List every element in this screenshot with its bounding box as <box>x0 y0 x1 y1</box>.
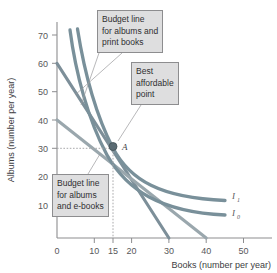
curve-label-i0-group: I 0 <box>231 208 240 220</box>
curve-label-i0: I <box>231 208 236 218</box>
leader-line-ebooks <box>88 154 100 174</box>
x-ticklabel-20: 20 <box>127 246 137 256</box>
y-ticklabel-50: 50 <box>38 87 48 97</box>
indifference-curve-chart: 10 20 30 40 50 60 70 0 10 15 20 30 40 50… <box>0 0 277 273</box>
y-ticklabel-10: 10 <box>38 201 48 211</box>
callout-ebooks-line2: for albums <box>57 190 104 202</box>
x-ticklabel-15: 15 <box>108 246 118 256</box>
callout-best-line1: Best <box>136 66 174 78</box>
curve-label-i1: I <box>231 191 236 201</box>
callout-best-line2: affordable <box>136 78 174 90</box>
x-ticklabel-30: 30 <box>164 246 174 256</box>
callout-ebooks-budget-line: Budget line for albums and e-books <box>52 174 109 217</box>
y-ticklabel-30: 30 <box>38 144 48 154</box>
callout-print-books-budget-line: Budget line for albums and print books <box>97 10 163 53</box>
leader-line-best-point <box>118 105 141 141</box>
point-A-marker <box>109 143 117 151</box>
y-ticklabel-20: 20 <box>38 172 48 182</box>
callout-print-line1: Budget line <box>102 14 158 26</box>
x-ticklabel-40: 40 <box>201 246 211 256</box>
callout-print-line3: print books <box>102 37 158 49</box>
curve-label-i1-group: I 1 <box>231 191 240 203</box>
callout-print-line2: for albums and <box>102 26 158 38</box>
x-ticklabel-50: 50 <box>238 246 248 256</box>
callout-best-affordable-point: Best affordable point <box>131 62 179 105</box>
x-ticklabel-0: 0 <box>54 246 59 256</box>
callout-ebooks-line3: and e-books <box>57 201 104 213</box>
y-ticklabel-70: 70 <box>38 31 48 41</box>
x-ticklabel-10: 10 <box>89 246 99 256</box>
y-ticklabel-40: 40 <box>38 116 48 126</box>
curve-label-i1-subscript: 1 <box>237 197 240 203</box>
callout-best-line3: point <box>136 89 174 101</box>
y-ticklabel-60: 60 <box>38 59 48 69</box>
curve-label-i0-subscript: 0 <box>237 214 240 220</box>
point-A-label: A <box>121 142 128 152</box>
y-axis-title: Albums (number per year) <box>6 78 16 183</box>
callout-ebooks-line1: Budget line <box>57 178 104 190</box>
x-axis-title: Books (number per year) <box>171 260 271 270</box>
